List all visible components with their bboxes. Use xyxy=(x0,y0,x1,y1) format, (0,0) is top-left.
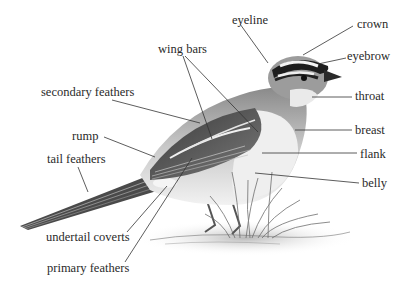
leader-rump xyxy=(104,137,155,157)
label-throat: throat xyxy=(355,90,384,103)
label-belly: belly xyxy=(362,177,387,190)
label-secondary-feathers: secondary feathers xyxy=(41,86,134,99)
leader-secondary-feathers xyxy=(112,100,200,123)
label-breast: breast xyxy=(355,124,385,137)
label-primary-feathers: primary feathers xyxy=(47,262,129,275)
label-flank: flank xyxy=(360,148,386,161)
tail xyxy=(20,175,160,230)
label-eyeline: eyeline xyxy=(232,14,268,27)
leader-eyeline xyxy=(240,24,268,63)
leader-crown xyxy=(303,26,353,55)
label-rump: rump xyxy=(72,130,98,143)
bird-anatomy-diagram: eyeline crown wing bars eyebrow secondar… xyxy=(0,0,407,294)
label-undertail-coverts: undertail coverts xyxy=(46,231,130,244)
leader-eyebrow xyxy=(318,58,346,64)
leader-tail-feathers xyxy=(78,167,88,192)
label-eyebrow: eyebrow xyxy=(347,50,390,63)
label-wing-bars: wing bars xyxy=(158,43,207,56)
label-tail-feathers: tail feathers xyxy=(47,153,106,166)
ground xyxy=(135,220,355,256)
label-crown: crown xyxy=(357,18,388,31)
